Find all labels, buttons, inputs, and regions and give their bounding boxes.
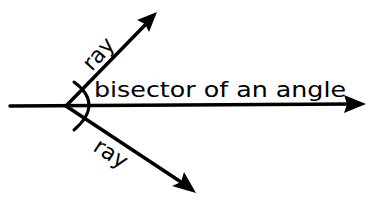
lower-ray-label: ray [89, 133, 132, 173]
bisector-arrowhead-icon [344, 95, 366, 113]
bisector-label: bisector of an angle [94, 78, 346, 102]
upper-ray-label: ray [77, 32, 119, 75]
bisector-line [10, 104, 352, 106]
angle-bisector-diagram: ray bisector of an angle ray [0, 0, 380, 215]
lower-ray-arrowhead-icon [172, 172, 196, 193]
